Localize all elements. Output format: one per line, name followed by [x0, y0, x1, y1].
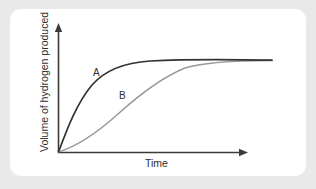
series-label-a: A	[93, 67, 100, 78]
series-label-b: B	[119, 90, 126, 101]
x-axis-arrowhead	[239, 149, 248, 156]
series-line-a	[59, 60, 273, 152]
y-axis	[55, 23, 62, 152]
y-axis-arrowhead	[55, 23, 62, 32]
y-axis-label: Volume of hydrogen produced	[38, 12, 50, 152]
figure-root: Volume of hydrogen produced Time A B	[0, 0, 316, 189]
x-axis-label: Time	[145, 157, 168, 169]
x-axis	[58, 149, 248, 156]
chart-svg: Volume of hydrogen produced Time A B	[0, 0, 316, 189]
series-line-b	[59, 61, 273, 153]
